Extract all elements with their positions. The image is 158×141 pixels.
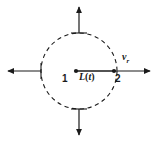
node-1-label: 1 xyxy=(62,74,68,84)
radial-velocity-label: vr xyxy=(122,52,129,65)
node-2-label: 2 xyxy=(115,74,121,84)
length-label: L(t) xyxy=(79,72,95,82)
length-paren-close: ) xyxy=(91,71,94,82)
node-1-dot xyxy=(74,69,78,73)
velocity-subscript: r xyxy=(126,57,129,65)
figure-container: 1 2 L(t) vr xyxy=(0,0,158,141)
